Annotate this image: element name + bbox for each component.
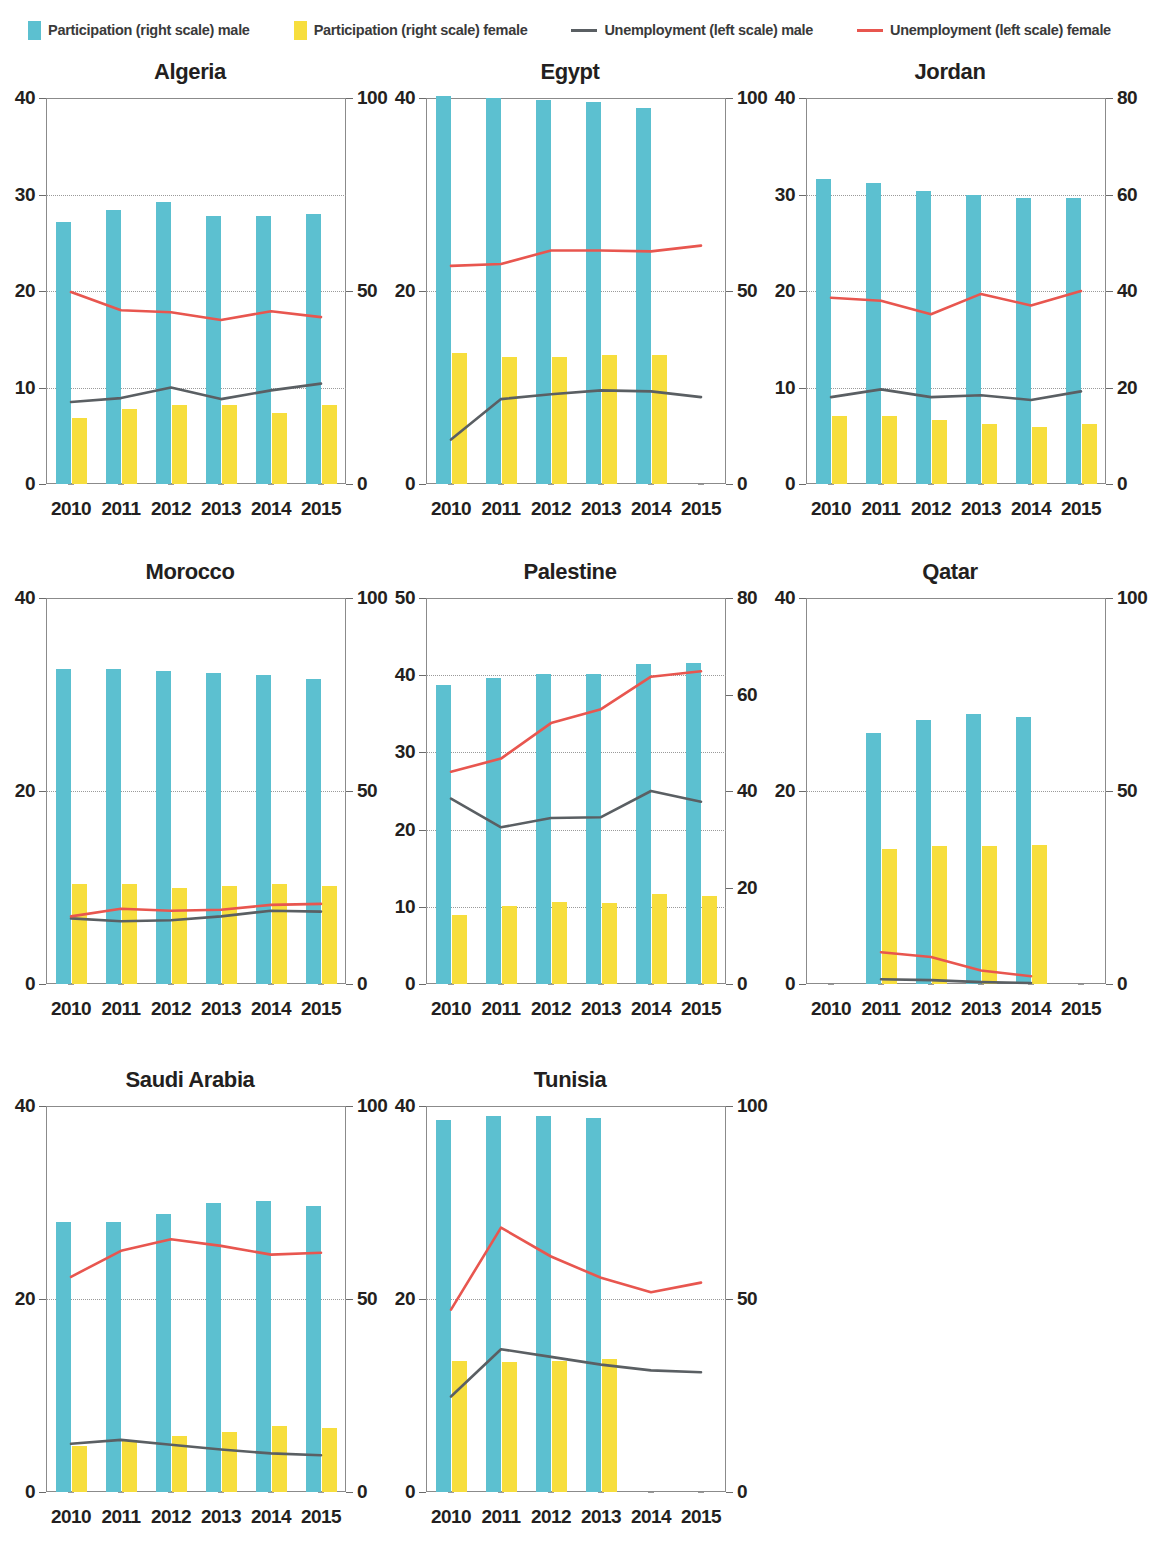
legend-line-unemployment-male-icon [571, 29, 597, 32]
line-unemployment-female [451, 671, 701, 771]
panel-title: Morocco [0, 554, 380, 590]
x-axis-tick-mark [448, 984, 454, 985]
line-unemployment-female [451, 246, 701, 266]
x-axis-label: 2015 [671, 498, 731, 520]
x-axis-tick-mark [928, 984, 934, 985]
legend-item-participation-female: Participation (right scale) female [294, 21, 528, 40]
x-axis-tick-mark [648, 1492, 654, 1493]
line-overlay [760, 590, 1150, 1044]
x-axis-tick-mark [878, 984, 884, 985]
x-axis-label: 2015 [671, 1506, 731, 1528]
x-axis-tick-mark [168, 1492, 174, 1493]
x-axis-tick-mark [1028, 484, 1034, 485]
x-axis-tick-mark [68, 484, 74, 485]
panel-jordan: Jordan0102030400204060802010201120122013… [760, 54, 1140, 554]
panel-title: Tunisia [380, 1062, 760, 1098]
legend-item-unemployment-female: Unemployment (left scale) female [857, 22, 1111, 38]
chart-legend: Participation (right scale) maleParticip… [0, 0, 1139, 54]
legend-line-unemployment-female-icon [857, 29, 883, 32]
panel-title: Palestine [380, 554, 760, 590]
panel-title: Jordan [760, 54, 1140, 90]
panel-qatar: Qatar02040050100201020112012201320142015 [760, 554, 1140, 1062]
x-axis-tick-mark [218, 984, 224, 985]
legend-label: Participation (right scale) male [48, 22, 250, 38]
x-axis-tick-mark [878, 484, 884, 485]
legend-item-unemployment-male: Unemployment (left scale) male [571, 22, 813, 38]
x-axis-tick-mark [448, 1492, 454, 1493]
x-axis-tick-mark [168, 484, 174, 485]
x-axis-tick-mark [598, 1492, 604, 1493]
x-axis-tick-mark [318, 1492, 324, 1493]
x-axis-tick-mark [168, 984, 174, 985]
panel-saudi-arabia: Saudi Arabia0204005010020102011201220132… [0, 1062, 380, 1543]
plot-area: 0102030405002040608020102011201220132014… [380, 590, 770, 1044]
x-axis-tick-mark [1028, 984, 1034, 985]
plot-area: 0102030400204060802010201120122013201420… [760, 90, 1150, 544]
x-axis-tick-mark [498, 984, 504, 985]
x-axis-tick-mark [978, 984, 984, 985]
plot-area: 02040050100201020112012201320142015 [380, 1098, 770, 1543]
x-axis-label: 2015 [291, 998, 351, 1020]
line-unemployment-male [451, 390, 701, 439]
plot-area: 02040050100201020112012201320142015 [0, 1098, 390, 1543]
x-axis-tick-mark [218, 1492, 224, 1493]
panel-tunisia: Tunisia020400501002010201120122013201420… [380, 1062, 760, 1543]
x-axis-tick-mark [118, 1492, 124, 1493]
line-unemployment-female [451, 1228, 701, 1310]
x-axis-tick-mark [548, 984, 554, 985]
x-axis-tick-mark [828, 984, 834, 985]
plot-area: 02040050100201020112012201320142015 [760, 590, 1150, 1044]
x-axis-tick-mark [1078, 484, 1084, 485]
line-overlay [0, 90, 390, 544]
line-overlay [0, 590, 390, 1044]
x-axis-tick-mark [698, 484, 704, 485]
x-axis-tick-mark [698, 1492, 704, 1493]
x-axis-tick-mark [498, 484, 504, 485]
plot-area: 010203040050100201020112012201320142015 [0, 90, 390, 544]
line-overlay [0, 1098, 390, 1543]
line-overlay [380, 590, 770, 1044]
x-axis-tick-mark [118, 484, 124, 485]
panel-egypt: Egypt02040050100201020112012201320142015 [380, 54, 760, 554]
panel-title: Egypt [380, 54, 760, 90]
legend-swatch-participation-female-icon [294, 21, 307, 40]
line-overlay [380, 1098, 770, 1543]
line-unemployment-female [71, 1239, 321, 1277]
line-unemployment-male [71, 911, 321, 922]
line-unemployment-male [451, 791, 701, 827]
x-axis-label: 2015 [291, 498, 351, 520]
line-unemployment-male [451, 1349, 701, 1396]
x-axis-tick-mark [648, 484, 654, 485]
x-axis-tick-mark [598, 984, 604, 985]
x-axis-label: 2015 [1051, 998, 1111, 1020]
x-axis-label: 2015 [671, 998, 731, 1020]
x-axis-tick-mark [828, 484, 834, 485]
plot-area: 02040050100201020112012201320142015 [380, 90, 770, 544]
x-axis-tick-mark [928, 484, 934, 485]
line-unemployment-male [881, 979, 1031, 983]
x-axis-tick-mark [268, 984, 274, 985]
x-axis-tick-mark [118, 984, 124, 985]
x-axis-tick-mark [318, 984, 324, 985]
panel-palestine: Palestine0102030405002040608020102011201… [380, 554, 760, 1062]
line-unemployment-male [71, 384, 321, 402]
line-overlay [380, 90, 770, 544]
x-axis-label: 2015 [1051, 498, 1111, 520]
line-unemployment-male [831, 389, 1081, 400]
x-axis-tick-mark [268, 484, 274, 485]
x-axis-tick-mark [548, 1492, 554, 1493]
line-overlay [760, 90, 1150, 544]
x-axis-tick-mark [318, 484, 324, 485]
panel-title: Algeria [0, 54, 380, 90]
legend-label: Participation (right scale) female [314, 22, 528, 38]
legend-item-participation-male: Participation (right scale) male [28, 21, 250, 40]
panel-title: Saudi Arabia [0, 1062, 380, 1098]
x-axis-tick-mark [648, 984, 654, 985]
x-axis-label: 2015 [291, 1506, 351, 1528]
line-unemployment-female [71, 292, 321, 320]
legend-label: Unemployment (left scale) female [890, 22, 1111, 38]
x-axis-tick-mark [68, 1492, 74, 1493]
x-axis-tick-mark [498, 1492, 504, 1493]
panel-algeria: Algeria010203040050100201020112012201320… [0, 54, 380, 554]
x-axis-tick-mark [598, 484, 604, 485]
